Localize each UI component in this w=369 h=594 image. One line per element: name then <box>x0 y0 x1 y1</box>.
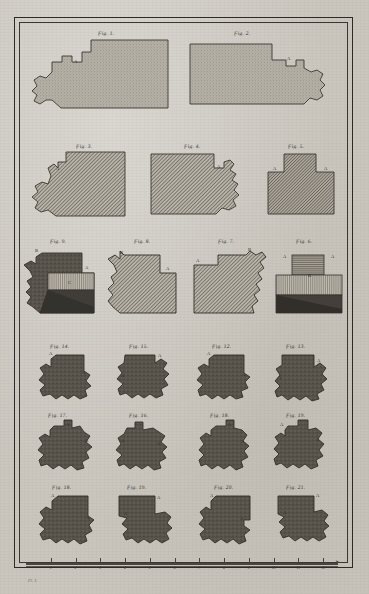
mark-A: A <box>124 512 127 517</box>
scale-tick <box>100 558 101 564</box>
figure-label: Fig. 15. <box>129 343 148 349</box>
figure-fig13: Fig. 13. A A <box>270 343 334 405</box>
figure-shape <box>113 418 177 476</box>
figure-fig20: Fig. 20. A A <box>194 484 260 550</box>
mark-A: A <box>51 494 54 499</box>
figure-fig17: Fig. 17. A A <box>34 412 98 476</box>
figure-label: Fig. 6. <box>296 238 312 244</box>
mark-A: A <box>166 267 169 272</box>
mark-A: A <box>280 423 283 428</box>
figure-fig21: Fig. 21. A A <box>270 484 336 550</box>
mark-A: A <box>316 438 319 443</box>
mark-A: A <box>283 255 286 260</box>
scale-tick <box>125 558 126 564</box>
figure-label: Fig. 18. <box>210 412 229 418</box>
figure-shape <box>24 245 104 323</box>
figure-fig5: Fig. 5. A A <box>262 143 344 226</box>
scale-tick-label: 11 <box>297 565 301 570</box>
mark-A: A <box>207 352 210 357</box>
figure-fig19b: Fig. 19. A A <box>270 412 334 476</box>
figure-shape <box>194 418 258 476</box>
figure-shape <box>148 150 254 226</box>
figure-label: Fig. 21. <box>286 484 305 490</box>
figure-fig18b: Fig. 18. A A <box>194 412 258 476</box>
figure-shape <box>113 490 179 550</box>
figure-label: Fig. 7. <box>218 238 234 244</box>
figure-label: Fig. 19. <box>127 484 146 490</box>
scale-tick-label: 7 <box>198 565 200 570</box>
figure-fig9: Fig. 9. B A C <box>24 238 104 323</box>
figure-shape <box>194 490 260 550</box>
scale-tick-label: 4 <box>124 565 126 570</box>
mark-A: A <box>196 259 199 264</box>
mark-A: A <box>85 439 88 444</box>
figure-label: Fig. 4. <box>184 143 200 149</box>
mark-A: A <box>278 376 281 381</box>
scale-tick-label: 8 <box>223 565 225 570</box>
scale-tick-label: 10 <box>272 565 276 570</box>
figure-label: Fig. 20. <box>214 484 233 490</box>
scale-tick <box>199 558 200 564</box>
figure-label: Fig. 2. <box>234 30 250 36</box>
figure-fig4: Fig. 4. A <box>148 143 254 226</box>
figure-shape <box>106 245 186 323</box>
scale-tick-label: 1 <box>50 565 52 570</box>
scale-rule-line <box>26 563 338 565</box>
scale-rule-line-secondary <box>26 566 338 567</box>
figure-label: Fig. 19. <box>286 412 305 418</box>
figure-fig14: Fig. 14. A A <box>34 343 98 405</box>
scale-tick-label: 6 <box>174 565 176 570</box>
scale-tick-label: 2 <box>75 565 77 570</box>
figure-shape <box>188 245 272 323</box>
mark-A: A <box>66 423 69 428</box>
scale-tick <box>51 558 52 564</box>
mark-B: B <box>248 248 251 253</box>
mark-A: A <box>287 57 290 62</box>
scale-tick <box>323 558 324 564</box>
mark-A: A <box>157 442 160 447</box>
mark-B: B <box>308 274 311 279</box>
mark-A: A <box>316 494 319 499</box>
scale-tick <box>150 558 151 564</box>
scale-tick-label: 3 <box>99 565 101 570</box>
measurement-scale: 123456789101112 ➤ <box>26 558 338 574</box>
mark-A: A <box>240 517 243 522</box>
mark-A: A <box>56 167 59 172</box>
figure-shape <box>194 349 258 405</box>
mark-A: A <box>273 167 276 172</box>
mark-A: A <box>217 165 220 170</box>
figure-fig6: Fig. 6. A A B <box>270 238 350 323</box>
mark-A: A <box>49 352 52 357</box>
scale-tick <box>175 558 176 564</box>
figure-shape <box>270 245 350 323</box>
figure-fig7: Fig. 7. A B <box>188 238 272 323</box>
figure-label: Fig. 18. <box>52 484 71 490</box>
figure-fig2: Fig. 2. A <box>186 30 336 120</box>
mark-A: A <box>317 359 320 364</box>
scale-tick-label: 5 <box>149 565 151 570</box>
figure-label: Fig. 12. <box>212 343 231 349</box>
figure-shape <box>270 490 336 550</box>
mark-B: B <box>120 251 123 256</box>
mark-A: A <box>331 255 334 260</box>
figure-label: Fig. 17. <box>48 412 67 418</box>
figure-fig15: Fig. 15. A A <box>113 343 177 405</box>
figure-label: Fig. 16. <box>129 412 148 418</box>
mark-A: A <box>86 516 89 521</box>
mark-A: A <box>85 266 88 271</box>
scale-tick <box>274 558 275 564</box>
plate-caption: Pl. I. <box>28 578 37 583</box>
figure-shape <box>186 38 336 120</box>
figure-fig1: Fig. 1. A <box>28 30 178 120</box>
mark-A: A <box>121 439 124 444</box>
figure-shape <box>262 150 344 226</box>
figure-fig12: Fig. 12. A A <box>194 343 258 405</box>
figure-fig8: Fig. 8. B A <box>106 238 186 323</box>
mark-A: A <box>283 511 286 516</box>
scale-tick <box>224 558 225 564</box>
figure-label: Fig. 8. <box>134 238 150 244</box>
figure-shape <box>28 38 178 120</box>
mark-B: B <box>35 249 38 254</box>
figure-shape <box>34 349 98 405</box>
scale-tick <box>249 558 250 564</box>
